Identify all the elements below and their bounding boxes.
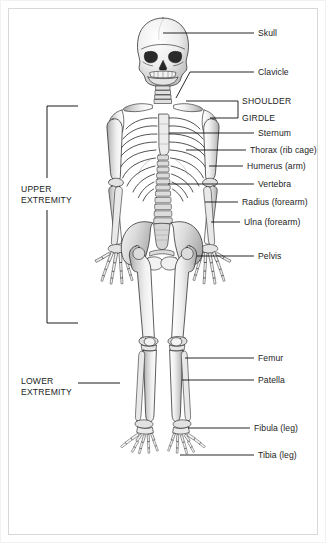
skull-bone [137, 18, 188, 87]
label-humerus: Humerus (arm) [247, 161, 306, 171]
vertebral-column [154, 155, 172, 224]
knee-joint [139, 337, 187, 352]
label-upper-extremity-line2: EXTREMITY [21, 195, 72, 205]
clavicle-bones [124, 104, 203, 112]
label-lower-extremity-line1: LOWER [21, 376, 54, 386]
label-pelvis: Pelvis [258, 251, 281, 261]
label-clavicle: Clavicle [258, 67, 289, 77]
cervical-vertebrae [155, 86, 172, 104]
label-vertebra: Vertebra [258, 179, 291, 189]
bracket-upper-extremity-bottom [47, 210, 78, 323]
label-radius: Radius (forearm) [242, 197, 308, 207]
label-tibia: Tibia (leg) [258, 450, 297, 460]
label-fibula: Fibula (leg) [254, 423, 298, 433]
leader-clavicle [176, 72, 254, 98]
foot-bones [121, 420, 206, 454]
label-femur: Femur [258, 353, 283, 363]
label-patella: Patella [258, 375, 285, 385]
label-shoulder-girdle-line2: GIRDLE [242, 113, 275, 123]
skeleton-diagram-page: Skull Clavicle SHOULDER GIRDLE Sternum T… [0, 0, 326, 543]
bracket-upper-extremity-top [47, 106, 78, 178]
label-shoulder-girdle-line1: SHOULDER [242, 96, 291, 106]
label-thorax: Thorax (rib cage) [250, 145, 317, 155]
lower-leg-bones [135, 350, 190, 422]
label-upper-extremity-line1: UPPER [21, 184, 52, 194]
label-ulna: Ulna (forearm) [244, 217, 301, 227]
label-sternum: Sternum [258, 128, 291, 138]
label-skull: Skull [258, 28, 277, 38]
skeleton-illustration [0, 0, 326, 543]
label-lower-extremity-line2: EXTREMITY [21, 387, 72, 397]
